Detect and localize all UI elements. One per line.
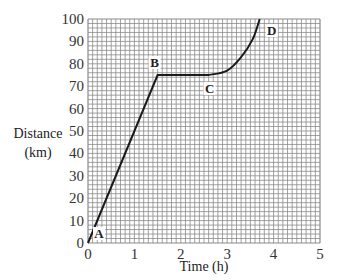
y-axis-label-unit: (km): [24, 145, 52, 161]
y-tick-label: 100: [62, 11, 85, 27]
distance-time-chart: 0102030405060708090100 012345 ABCD Dista…: [0, 0, 341, 280]
point-label-d: D: [267, 23, 276, 38]
y-tick-label: 20: [69, 190, 84, 206]
x-tick-label: 1: [131, 246, 139, 262]
x-tick-label: 0: [84, 246, 92, 262]
y-tick-label: 90: [69, 33, 84, 49]
y-tick-label: 0: [77, 235, 85, 251]
y-tick-label: 70: [69, 78, 84, 94]
point-label-c: C: [205, 81, 214, 96]
y-tick-label: 40: [69, 145, 84, 161]
chart-grid: [88, 19, 320, 243]
x-tick-label: 4: [270, 246, 278, 262]
point-label-a: A: [94, 226, 104, 241]
y-axis-ticks: 0102030405060708090100: [62, 11, 85, 251]
x-axis-label: Time (h): [180, 259, 229, 275]
y-tick-label: 60: [69, 101, 84, 117]
y-tick-label: 80: [69, 56, 84, 72]
point-label-b: B: [150, 55, 159, 70]
y-axis-label: Distance: [14, 126, 63, 141]
y-tick-label: 10: [69, 213, 84, 229]
y-tick-label: 50: [69, 123, 84, 139]
x-tick-label: 5: [316, 246, 324, 262]
y-tick-label: 30: [69, 168, 84, 184]
